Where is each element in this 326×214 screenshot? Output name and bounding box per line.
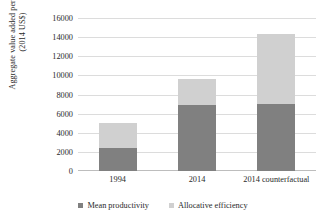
y-axis-tick-label: 14000 — [52, 33, 73, 42]
legend-swatch-icon — [78, 203, 83, 208]
y-axis-tick-label: 6000 — [56, 109, 73, 118]
bar-segment[interactable] — [99, 123, 137, 148]
bar-segment[interactable] — [178, 79, 216, 105]
plot-area: 0200040006000800010000120001400016000 19… — [78, 18, 316, 171]
bar-slot: 1994 — [78, 18, 157, 171]
y-axis-tick-label: 8000 — [56, 90, 73, 99]
bar-stack[interactable] — [178, 79, 216, 171]
y-axis-title-line-1: Aggregate value added per worker — [8, 0, 18, 90]
y-axis-title-line-2: (2014 US$) — [18, 13, 28, 52]
legend-label: Allocative efficiency — [178, 201, 248, 210]
bar-segment[interactable] — [99, 148, 137, 171]
bar-group: 199420142014 counterfactual — [78, 18, 316, 171]
y-axis-tick-label: 12000 — [52, 52, 73, 61]
legend-label: Mean productivity — [87, 201, 149, 210]
chart-container: Aggregate value added per worker (2014 U… — [0, 0, 326, 214]
x-axis-tick-label: 1994 — [109, 175, 126, 184]
bar-stack[interactable] — [257, 34, 295, 171]
x-axis-tick-label: 2014 — [189, 175, 206, 184]
y-axis-tick-label: 2000 — [56, 147, 73, 156]
y-axis-tick-label: 4000 — [56, 128, 73, 137]
bar-segment[interactable] — [257, 34, 295, 104]
bar-stack[interactable] — [99, 123, 137, 171]
chart-legend: Mean productivityAllocative efficiency — [0, 201, 326, 210]
y-axis-tick-label: 0 — [69, 167, 73, 176]
bar-segment[interactable] — [178, 105, 216, 171]
y-axis-title: Aggregate value added per worker (2014 U… — [8, 0, 28, 112]
y-axis-tick-label: 10000 — [52, 71, 73, 80]
y-axis-tick-label: 16000 — [52, 14, 73, 23]
bar-segment[interactable] — [257, 104, 295, 171]
legend-swatch-icon — [169, 203, 174, 208]
legend-item[interactable]: Allocative efficiency — [169, 201, 248, 210]
legend-item[interactable]: Mean productivity — [78, 201, 149, 210]
bar-slot: 2014 counterfactual — [237, 18, 316, 171]
x-axis-tick-label: 2014 counterfactual — [243, 175, 309, 184]
bar-slot: 2014 — [157, 18, 236, 171]
